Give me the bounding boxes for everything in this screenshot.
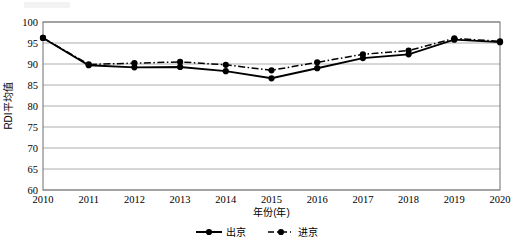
legend-marker-icon	[278, 229, 284, 235]
data-point	[497, 38, 503, 44]
x-tick-label: 2011	[78, 194, 99, 205]
x-tick-label: 2015	[261, 194, 282, 205]
line-chart: 6065707580859095100 20102011201220132014…	[0, 0, 529, 252]
data-point	[131, 60, 137, 66]
y-axis-title: RDI平均值	[2, 82, 14, 129]
data-point	[314, 65, 320, 71]
data-point	[268, 67, 274, 73]
data-point	[223, 62, 229, 68]
x-tick-label: 2014	[215, 194, 237, 205]
chart-container: 6065707580859095100 20102011201220132014…	[0, 0, 529, 252]
y-tick-label: 85	[28, 80, 39, 91]
x-tick-label: 2010	[33, 194, 54, 205]
y-tick-label: 90	[28, 59, 39, 70]
data-point	[360, 51, 366, 57]
x-tick-label: 2013	[170, 194, 191, 205]
data-point	[40, 35, 46, 41]
x-tick-label: 2016	[307, 194, 328, 205]
data-point	[86, 61, 92, 67]
decorative-artifact	[24, 2, 70, 8]
legend-label: 出京	[226, 226, 246, 238]
legend-marker-icon	[206, 229, 212, 235]
x-tick-label: 2019	[444, 194, 465, 205]
y-tick-label: 100	[22, 17, 38, 28]
data-point	[177, 59, 183, 65]
legend-label: 进京	[298, 226, 318, 238]
x-tick-label: 2018	[398, 194, 419, 205]
y-tick-label: 65	[28, 164, 39, 175]
data-point	[451, 35, 457, 41]
y-tick-label: 80	[28, 101, 39, 112]
data-point	[268, 75, 274, 81]
y-tick-label: 70	[28, 143, 39, 154]
y-tick-label: 75	[28, 122, 39, 133]
data-point	[223, 68, 229, 74]
data-point	[314, 59, 320, 65]
x-tick-label: 2020	[490, 194, 511, 205]
x-tick-label: 2017	[352, 194, 373, 205]
data-point	[406, 47, 412, 53]
y-tick-label: 95	[28, 38, 39, 49]
x-axis-title: 年份(年)	[253, 206, 290, 218]
x-tick-label: 2012	[124, 194, 145, 205]
